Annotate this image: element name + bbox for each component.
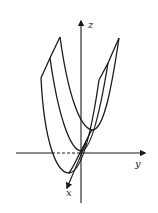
- y-axis-label: y: [134, 158, 141, 169]
- x-axis: [67, 143, 86, 188]
- paraboloid-diagram: z y x: [0, 0, 158, 213]
- back-parabola: [60, 37, 119, 130]
- z-axis-label: z: [87, 19, 94, 30]
- left-top-edge: [41, 37, 60, 78]
- x-axis-label: x: [66, 187, 72, 198]
- middle-parabola: [50, 58, 108, 151]
- front-parabola: [41, 78, 99, 173]
